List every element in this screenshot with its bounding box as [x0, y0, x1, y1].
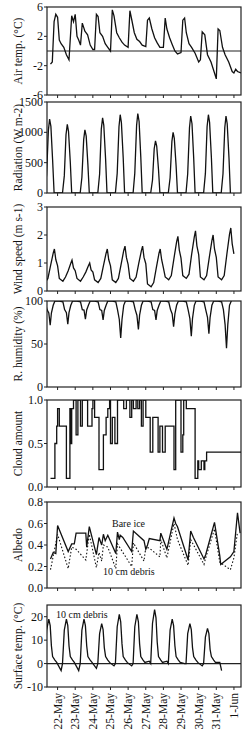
panel-surface_temp: -1001020Surface temp. (°C)10 cm debris: [12, 603, 241, 695]
panel-radiation: 050010001500Radiation (W m-2): [12, 95, 241, 200]
y-tick-label: 100: [25, 294, 43, 308]
y-tick-label: 0.0: [28, 581, 43, 595]
y-axis-label: Surface temp. (°C): [12, 603, 25, 690]
series-line: [51, 513, 241, 565]
y-axis-label: R. humidity (%): [12, 306, 25, 381]
y-tick-label: 0: [37, 657, 43, 671]
y-tick-label: 500: [25, 156, 43, 170]
y-tick-label: 0.4: [28, 538, 43, 552]
panel-wind_speed: 0123Wind speed (m s-1): [12, 200, 241, 298]
x-tick-label: 26-May: [122, 693, 135, 730]
plot-frame: [47, 301, 241, 387]
y-tick-label: 0.2: [28, 560, 43, 574]
panel-humidity: 050100R. humidity (%): [12, 294, 241, 394]
series-line: [42, 228, 234, 287]
series-line: [42, 301, 232, 348]
x-tick-label: 22-May: [52, 693, 65, 730]
series-line: [51, 400, 242, 478]
x-tick-label: 31-May: [210, 693, 223, 730]
x-tick-label: 30-May: [193, 693, 206, 730]
x-tick-label: 29-May: [175, 693, 188, 730]
x-tick-label: 23-May: [69, 693, 82, 730]
y-tick-label: 0.0: [28, 480, 43, 494]
y-axis-label: Wind speed (m s-1): [12, 204, 25, 295]
panel-air_temp: -6-226Air temp. (°C): [12, 0, 241, 102]
y-axis-label: Air temp. (°C): [12, 17, 25, 84]
y-axis-label: Cloud amount: [12, 410, 24, 476]
y-axis-label: Albedo: [12, 528, 24, 562]
y-tick-label: 6: [37, 0, 43, 14]
x-tick-label: 25-May: [104, 693, 117, 730]
plot-frame: [47, 207, 241, 291]
y-tick-label: 2: [37, 29, 43, 43]
x-tick-label: 28-May: [157, 693, 170, 730]
annotation-bare-ice: Bare ice: [112, 518, 146, 529]
series-line: [51, 524, 238, 570]
y-tick-label: 1: [37, 256, 43, 270]
panel-albedo: 0.00.20.40.60.8AlbedoBare ice10 cm debri…: [12, 495, 241, 595]
y-tick-label: 1.0: [28, 393, 43, 407]
y-tick-label: 0: [37, 380, 43, 394]
y-axis-label: Radiation (W m-2): [12, 104, 25, 191]
x-tick-label: 24-May: [87, 693, 100, 730]
y-tick-label: 0.6: [28, 517, 43, 531]
x-tick-label: 27-May: [140, 693, 153, 730]
panel-cloud: 0.00.51.0Cloud amount: [12, 393, 241, 494]
y-tick-label: 2: [37, 228, 43, 242]
series-line: [51, 10, 242, 79]
y-tick-label: -10: [27, 680, 43, 694]
y-tick-label: 20: [31, 610, 43, 624]
annotation-debris: 10 cm debris: [103, 566, 155, 577]
y-tick-label: 0.8: [28, 495, 43, 509]
multi-panel-chart: -6-226Air temp. (°C)050010001500Radiatio…: [0, 0, 250, 731]
y-tick-label: 0: [37, 186, 43, 200]
y-tick-label: -2: [33, 59, 43, 73]
y-tick-label: 10: [31, 633, 43, 647]
annotation-debris: 10 cm debris: [56, 609, 108, 620]
y-tick-label: 0.5: [28, 437, 43, 451]
y-tick-label: 50: [31, 337, 43, 351]
series-line: [45, 114, 231, 194]
y-tick-label: 3: [37, 200, 43, 214]
x-tick-label: 1-Jun: [228, 693, 240, 719]
